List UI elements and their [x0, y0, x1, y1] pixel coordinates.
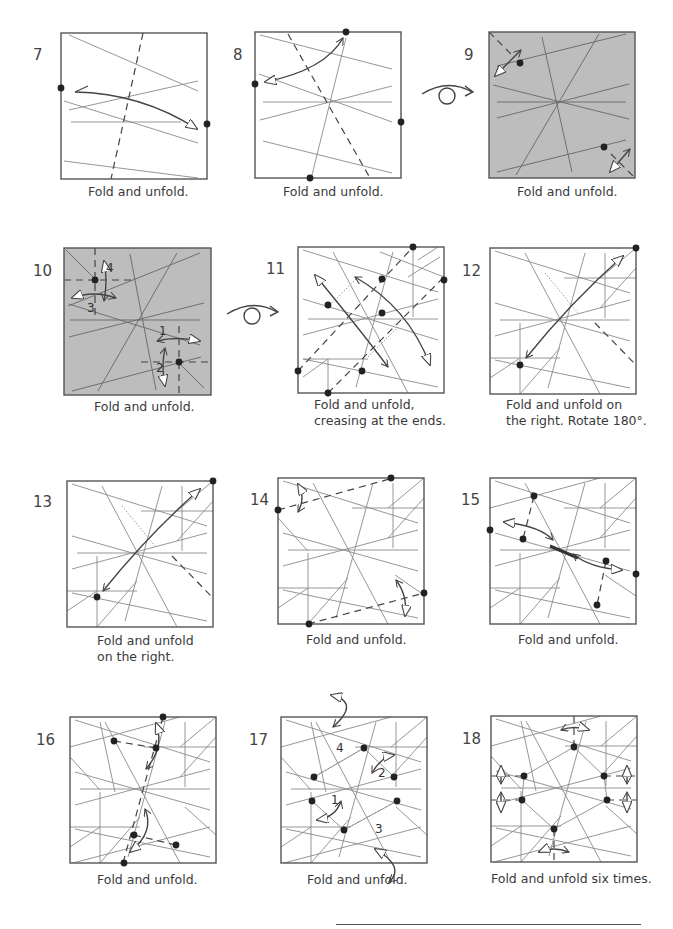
- turn-over-icon: [420, 80, 480, 110]
- turn-over-icon: [225, 300, 285, 330]
- fold-diagram: [248, 448, 454, 654]
- step-caption: Fold and unfold.: [306, 632, 407, 648]
- fold-diagram: [31, 3, 237, 209]
- svg-text:1: 1: [159, 324, 167, 338]
- fold-diagram: 4213: [251, 687, 457, 893]
- step-caption: Fold and unfold six times.: [491, 871, 652, 887]
- svg-text:3: 3: [87, 301, 95, 315]
- step-caption: Fold and unfold.: [94, 399, 195, 415]
- step-caption: Fold and unfold.: [517, 184, 618, 200]
- footer-rule: [336, 924, 641, 925]
- step-caption: Fold and unfold.: [307, 872, 408, 888]
- svg-text:2: 2: [378, 766, 386, 780]
- fold-diagram: [37, 451, 243, 657]
- svg-text:1: 1: [331, 793, 339, 807]
- fold-diagram: [460, 218, 666, 424]
- svg-text:2: 2: [156, 361, 164, 375]
- svg-text:4: 4: [336, 741, 344, 755]
- fold-diagram: [268, 217, 474, 423]
- fold-diagram: [459, 2, 665, 208]
- step-caption: Fold and unfold on the right. Rotate 180…: [506, 397, 647, 429]
- step-caption: Fold and unfold.: [283, 184, 384, 200]
- fold-diagram: 4312: [34, 218, 241, 425]
- fold-diagram: [461, 686, 667, 892]
- svg-text:3: 3: [375, 822, 383, 836]
- fold-diagram: [40, 687, 246, 893]
- step-caption: Fold and unfold on the right.: [97, 633, 194, 665]
- step-caption: Fold and unfold.: [518, 632, 619, 648]
- fold-diagram: [460, 448, 666, 654]
- step-caption: Fold and unfold.: [97, 872, 198, 888]
- step-caption: Fold and unfold.: [88, 184, 189, 200]
- step-caption: Fold and unfold, creasing at the ends.: [314, 397, 446, 429]
- fold-diagram: [225, 2, 431, 208]
- svg-text:4: 4: [106, 261, 114, 275]
